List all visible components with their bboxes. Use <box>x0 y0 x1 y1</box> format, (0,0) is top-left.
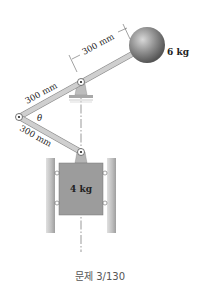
right-guide-rail <box>107 158 116 233</box>
pivot-block <box>78 149 85 156</box>
label-block-mass: 4 kg <box>70 184 93 194</box>
pivot-left <box>16 114 23 121</box>
mechanism-diagram: 300 mm 6 kg 300 mm 300 mm θ 4 kg <box>0 0 200 295</box>
label-ball-arm-length: 300 mm <box>80 31 116 56</box>
figure-caption: 문제 3/130 <box>0 268 200 283</box>
pivot-upper <box>78 79 85 86</box>
ball-mass <box>129 27 165 63</box>
left-guide-rail <box>46 158 55 233</box>
label-ball-mass: 6 kg <box>167 47 190 57</box>
label-angle-theta: θ <box>37 113 42 123</box>
